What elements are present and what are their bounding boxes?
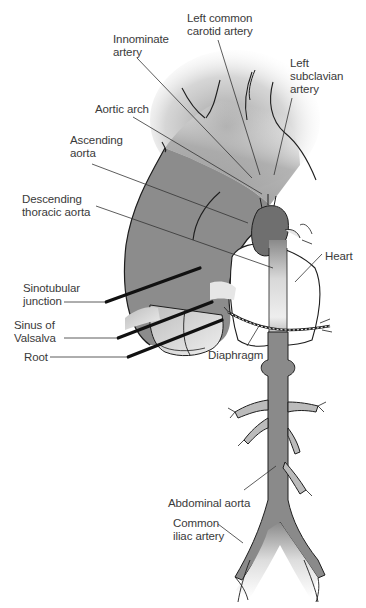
- label-line: aorta: [70, 147, 123, 160]
- label-line: Innominate: [113, 33, 169, 46]
- label-sinus-of-valsalva: Sinus of Valsalva: [14, 319, 56, 345]
- label-line: subclavian: [290, 70, 343, 83]
- label-common-iliac-artery: Common iliac artery: [173, 517, 224, 543]
- label-line: junction: [23, 295, 80, 308]
- label-line: artery: [113, 46, 169, 59]
- label-line: Aortic arch: [95, 103, 149, 116]
- aorta-diagram: Innominate artery Left common carotid ar…: [0, 0, 366, 608]
- label-heart: Heart: [325, 250, 353, 263]
- label-abdominal-aorta: Abdominal aorta: [168, 497, 250, 510]
- label-line: Abdominal aorta: [168, 497, 250, 510]
- label-diaphragm: Diaphragm: [208, 349, 263, 362]
- label-line: Root: [24, 351, 48, 364]
- label-line: Sinotubular: [23, 282, 80, 295]
- label-line: iliac artery: [173, 530, 224, 543]
- label-line: Common: [173, 517, 224, 530]
- label-line: Left common: [187, 12, 253, 25]
- label-line: Heart: [325, 250, 353, 263]
- label-line: Left: [290, 57, 343, 70]
- label-line: Descending: [22, 193, 90, 206]
- label-aortic-arch: Aortic arch: [95, 103, 149, 116]
- label-left-common-carotid-artery: Left common carotid artery: [187, 12, 253, 38]
- label-line: carotid artery: [187, 25, 253, 38]
- label-line: Valsalva: [14, 332, 56, 345]
- label-left-subclavian-artery: Left subclavian artery: [290, 57, 343, 96]
- label-line: Diaphragm: [208, 349, 263, 362]
- label-root: Root: [24, 351, 48, 364]
- label-line: thoracic aorta: [22, 206, 90, 219]
- label-ascending-aorta: Ascending aorta: [70, 134, 123, 160]
- label-line: Sinus of: [14, 319, 56, 332]
- label-line: artery: [290, 83, 343, 96]
- label-line: Ascending: [70, 134, 123, 147]
- label-descending-thoracic-aorta: Descending thoracic aorta: [22, 193, 90, 219]
- label-innominate-artery: Innominate artery: [113, 33, 169, 59]
- label-sinotubular-junction: Sinotubular junction: [23, 282, 80, 308]
